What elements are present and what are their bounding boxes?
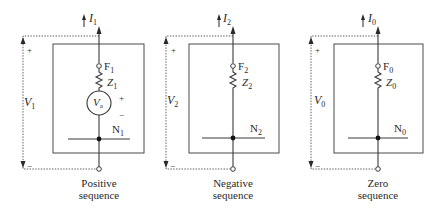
- reference-terminal: [376, 167, 381, 172]
- neutral-node: [97, 137, 102, 142]
- voltage-minus-sign: −: [315, 161, 320, 171]
- neutral-node: [231, 136, 236, 141]
- reference-terminal: [97, 167, 102, 172]
- voltage-label: V1: [24, 95, 35, 111]
- voltage-minus-sign: −: [27, 161, 32, 171]
- impedance-label: Z2: [242, 76, 252, 91]
- caption-line2: sequence: [358, 189, 398, 201]
- voltage-plus-sign: +: [315, 45, 320, 55]
- source-minus-sign: −: [119, 110, 124, 120]
- current-direction-arrow-icon: [82, 14, 86, 20]
- current-arrow-icon: [97, 26, 102, 34]
- caption-line2: sequence: [79, 189, 119, 201]
- voltage-arrow-up-icon: [21, 37, 26, 44]
- voltage-arrow-up-icon: [164, 37, 169, 44]
- fault-label: F1: [104, 60, 114, 75]
- voltage-plus-sign: +: [27, 45, 32, 55]
- voltage-plus-sign: +: [171, 45, 176, 55]
- reference-terminal: [231, 167, 236, 172]
- voltage-label: V0: [314, 93, 325, 109]
- voltage-minus-sign: −: [170, 161, 175, 171]
- impedance-resistor-icon: [96, 69, 102, 92]
- source-plus-sign: +: [119, 93, 124, 103]
- fault-point-terminal: [97, 64, 102, 69]
- neutral-label: N2: [250, 122, 262, 137]
- caption-line1: Positive: [81, 177, 117, 189]
- voltage-arrow-down-icon: [309, 161, 314, 168]
- impedance-label: Z1: [107, 76, 117, 91]
- caption-line1: Negative: [213, 177, 253, 189]
- neutral-node: [376, 136, 381, 141]
- positive-sequence-network: I1 + − V1 F1 Z1 Va + − N1 Positive seque…: [21, 11, 145, 201]
- impedance-resistor-icon: [230, 69, 236, 92]
- voltage-arrow-down-icon: [164, 161, 169, 168]
- fault-label: F0: [383, 60, 393, 75]
- current-label: I1: [88, 11, 97, 27]
- fault-point-terminal: [376, 64, 381, 69]
- impedance-label: Z0: [386, 76, 396, 91]
- impedance-resistor-icon: [375, 69, 381, 92]
- current-arrow-icon: [376, 26, 381, 34]
- zero-sequence-network: I0 + − V0 F0 Z0 N0 Zero sequence: [309, 11, 424, 201]
- neutral-label: N1: [112, 123, 124, 138]
- voltage-arrow-down-icon: [21, 161, 26, 168]
- sequence-networks-diagram: I1 + − V1 F1 Z1 Va + − N1 Positive seque…: [0, 0, 444, 209]
- negative-sequence-network: I2 + − V2 F2 Z2 N2 Negative sequence: [164, 11, 280, 201]
- voltage-arrow-up-icon: [309, 37, 314, 44]
- current-direction-arrow-icon: [361, 14, 365, 20]
- caption-line1: Zero: [368, 177, 389, 189]
- current-arrow-icon: [231, 26, 236, 34]
- current-label: I2: [222, 11, 231, 27]
- current-label: I0: [367, 11, 376, 27]
- caption-line2: sequence: [213, 189, 253, 201]
- fault-label: F2: [238, 60, 248, 75]
- voltage-label: V2: [167, 93, 178, 109]
- fault-point-terminal: [231, 64, 236, 69]
- neutral-label: N0: [394, 122, 406, 137]
- source-label: Va: [93, 96, 104, 110]
- current-direction-arrow-icon: [217, 14, 221, 20]
